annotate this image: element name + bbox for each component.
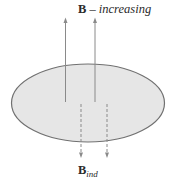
induced-field-label: Bind: [78, 163, 98, 178]
diagram-canvas: [0, 0, 174, 185]
field-state: increasing: [99, 2, 151, 16]
current-loop: [12, 64, 165, 142]
subscript: ind: [86, 169, 98, 179]
external-field-label: B – increasing: [78, 2, 151, 17]
dash: –: [86, 2, 99, 16]
